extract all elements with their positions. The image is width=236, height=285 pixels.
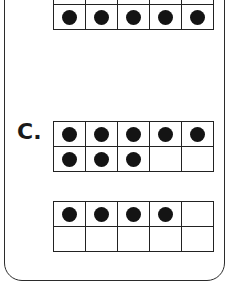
ten-frame-cell [150,227,182,252]
ten-frame-top [53,0,214,30]
ten-frame-cell [182,227,214,252]
counter-dot-icon [126,10,141,25]
counter-dot-icon [62,207,77,222]
counter-dot-icon [94,127,109,142]
ten-frame-cell [118,147,150,172]
counter-dot-icon [94,10,109,25]
ten-frame-cell [118,202,150,227]
ten-frame-cell [86,147,118,172]
ten-frame-cell [182,122,214,147]
counter-dot-icon [126,127,141,142]
ten-frame-cell [182,202,214,227]
ten-frame-cell [86,227,118,252]
counter-dot-icon [190,10,205,25]
section-label: C. [17,119,42,144]
ten-frame-cell [54,147,86,172]
counter-dot-icon [62,10,77,25]
counter-dot-icon [158,127,173,142]
ten-frame-cell [182,147,214,172]
ten-frame-cell [54,5,86,30]
counter-dot-icon [94,152,109,167]
ten-frame-cell [86,122,118,147]
counter-dot-icon [126,207,141,222]
counter-dot-icon [94,207,109,222]
ten-frame-cell [54,227,86,252]
counter-dot-icon [126,152,141,167]
ten-frame-cell [150,147,182,172]
counter-dot-icon [158,207,173,222]
ten-frame-cell [118,5,150,30]
ten-frame-cell [150,202,182,227]
counter-dot-icon [158,10,173,25]
ten-frame-cell [150,5,182,30]
ten-frame-cell [86,5,118,30]
ten-frame-cell [118,227,150,252]
ten-frame-c2 [53,201,214,252]
ten-frame-cell [182,5,214,30]
ten-frame-cell [118,122,150,147]
ten-frame-cell [150,122,182,147]
counter-dot-icon [62,152,77,167]
ten-frame-cell [54,202,86,227]
counter-dot-icon [190,127,205,142]
ten-frame-c1 [53,121,214,172]
ten-frame-cell [54,122,86,147]
ten-frame-cell [86,202,118,227]
counter-dot-icon [62,127,77,142]
